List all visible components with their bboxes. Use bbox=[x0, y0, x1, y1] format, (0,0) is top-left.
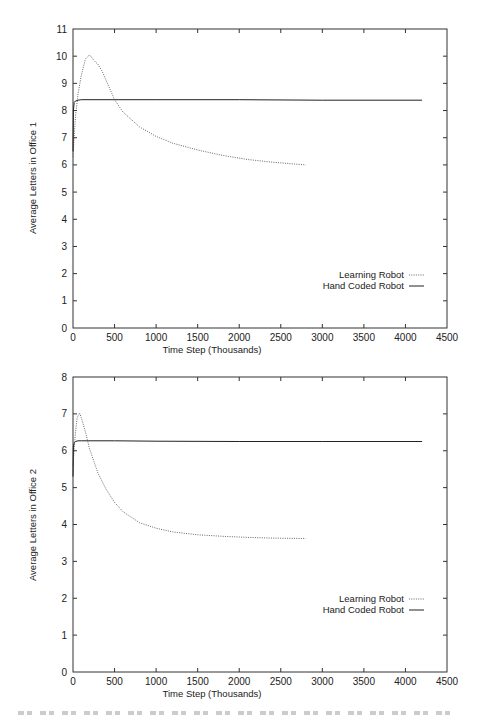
plot-frame bbox=[73, 377, 447, 672]
y-tick-label: 0 bbox=[61, 323, 67, 334]
y-tick-label: 5 bbox=[61, 482, 67, 493]
x-tick-label: 4500 bbox=[436, 676, 459, 687]
x-tick-label: 2000 bbox=[228, 676, 251, 687]
x-tick-label: 4500 bbox=[436, 332, 459, 343]
y-tick-label: 9 bbox=[61, 78, 67, 89]
hand-coded-robot-line bbox=[73, 441, 422, 477]
y-tick-label: 8 bbox=[61, 372, 67, 383]
y-tick-label: 6 bbox=[61, 159, 67, 170]
y-axis-title: Average Letters in Office 2 bbox=[27, 469, 38, 581]
x-tick-label: 0 bbox=[70, 676, 76, 687]
x-tick-label: 3000 bbox=[311, 676, 334, 687]
legend-label-hand-coded-robot: Hand Coded Robot bbox=[323, 604, 405, 615]
y-tick-label: 3 bbox=[61, 556, 67, 567]
x-tick-label: 2500 bbox=[270, 676, 293, 687]
x-tick-label: 4000 bbox=[394, 676, 417, 687]
x-tick-label: 500 bbox=[106, 332, 123, 343]
y-tick-label: 1 bbox=[61, 295, 67, 306]
x-tick-label: 1000 bbox=[145, 332, 168, 343]
y-tick-label: 1 bbox=[61, 630, 67, 641]
x-tick-label: 3500 bbox=[353, 332, 376, 343]
y-tick-label: 10 bbox=[56, 51, 68, 62]
y-axis-title: Average Letters in Office 1 bbox=[27, 122, 38, 234]
legend-label-learning-robot: Learning Robot bbox=[339, 269, 404, 280]
x-tick-label: 0 bbox=[70, 332, 76, 343]
y-tick-label: 4 bbox=[61, 519, 67, 530]
y-tick-label: 6 bbox=[61, 445, 67, 456]
y-tick-label: 2 bbox=[61, 593, 67, 604]
x-tick-label: 1500 bbox=[187, 332, 210, 343]
figure-caption-cropped bbox=[18, 711, 458, 715]
y-tick-label: 5 bbox=[61, 187, 67, 198]
x-tick-label: 1500 bbox=[187, 676, 210, 687]
legend: Learning Robot Hand Coded Robot bbox=[323, 593, 424, 615]
y-tick-label: 4 bbox=[61, 214, 67, 225]
x-tick-label: 3500 bbox=[353, 676, 376, 687]
y-tick-label: 11 bbox=[57, 24, 68, 35]
x-axis-title: Time Step (Thousands) bbox=[163, 688, 262, 699]
legend-label-learning-robot: Learning Robot bbox=[339, 593, 404, 604]
figure: 0500100015002000250030003500400045000123… bbox=[0, 0, 481, 715]
learning-robot-line bbox=[73, 413, 306, 538]
axis-ticks: 0500100015002000250030003500400045000123… bbox=[56, 24, 459, 344]
y-tick-label: 0 bbox=[61, 667, 67, 678]
y-tick-label: 8 bbox=[61, 105, 67, 116]
axis-ticks: 0500100015002000250030003500400045000123… bbox=[61, 372, 458, 688]
plot-office-1: 0500100015002000250030003500400045000123… bbox=[27, 24, 459, 356]
legend: Learning Robot Hand Coded Robot bbox=[323, 269, 424, 291]
data-series bbox=[73, 413, 422, 538]
data-series bbox=[73, 55, 422, 165]
hand-coded-robot-line bbox=[73, 100, 422, 152]
x-tick-label: 1000 bbox=[145, 676, 168, 687]
y-tick-label: 3 bbox=[61, 241, 67, 252]
x-tick-label: 3000 bbox=[311, 332, 334, 343]
x-tick-label: 2500 bbox=[270, 332, 293, 343]
x-tick-label: 4000 bbox=[394, 332, 417, 343]
y-tick-label: 7 bbox=[61, 132, 67, 143]
y-tick-label: 7 bbox=[61, 408, 67, 419]
x-tick-label: 500 bbox=[106, 676, 123, 687]
x-tick-label: 2000 bbox=[228, 332, 251, 343]
legend-label-hand-coded-robot: Hand Coded Robot bbox=[323, 280, 405, 291]
learning-robot-line bbox=[73, 55, 306, 165]
y-tick-label: 2 bbox=[61, 268, 67, 279]
x-axis-title: Time Step (Thousands) bbox=[163, 344, 262, 355]
plot-office-2: 0500100015002000250030003500400045000123… bbox=[27, 372, 459, 700]
